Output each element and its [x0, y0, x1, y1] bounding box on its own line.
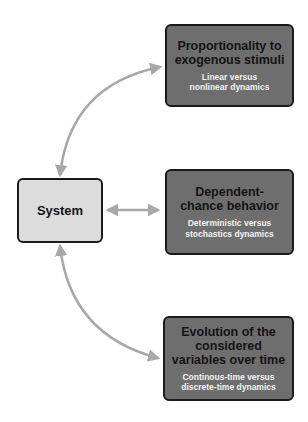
node-evolution: Evolution of the considered variables ov… [163, 316, 294, 401]
node-title: Evolution of the considered variables ov… [165, 325, 292, 367]
arrow-system-to-evolution [60, 246, 158, 358]
node-subtitle: Continous-time versus discrete-time dyna… [165, 372, 292, 393]
node-dependent-chance: Dependent-chance behavior Deterministic … [165, 169, 294, 255]
system-label: System [37, 204, 83, 218]
node-subtitle: Linear versus nonlinear dynamics [167, 72, 292, 93]
system-node: System [17, 178, 103, 243]
node-title: Proportionality to exogenous stimuli [167, 39, 292, 67]
node-title: Dependent-chance behavior [167, 185, 292, 213]
node-proportionality: Proportionality to exogenous stimuli Lin… [165, 24, 294, 107]
node-subtitle: Deterministic versus stochastics dynamic… [167, 218, 292, 239]
arrow-system-to-proportionality [60, 67, 160, 175]
